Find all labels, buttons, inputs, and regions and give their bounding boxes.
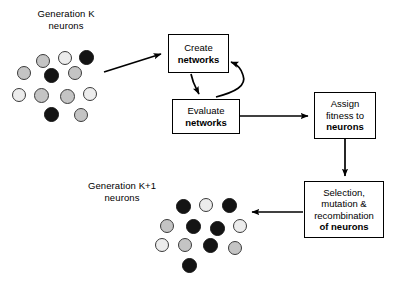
box-line: networks — [185, 117, 227, 129]
neuron-light — [199, 198, 213, 212]
arrow-create-to-evaluate — [191, 74, 199, 94]
generation-k-label: Generation K neurons — [14, 8, 118, 32]
box-line: recombination — [314, 210, 374, 222]
box-line: of neurons — [319, 221, 368, 233]
generation-k-plus-1-label: Generation K+1 neurons — [68, 180, 176, 204]
box-line: Create — [184, 42, 213, 54]
neuron-dark — [182, 258, 197, 273]
neuron-dark — [176, 199, 191, 214]
arrow-genk-to-create — [104, 54, 161, 72]
neuron-dark — [44, 107, 59, 122]
box-line: mutation & — [321, 198, 366, 210]
box-line: fitness to — [326, 110, 364, 122]
box-line: Selection, — [323, 187, 365, 199]
neuron-dark — [186, 219, 201, 234]
box-line: neurons — [326, 121, 363, 133]
neuron-dark — [203, 238, 218, 253]
neuron-mid — [17, 66, 31, 80]
neuron-mid — [68, 66, 82, 80]
box-line: Evaluate — [188, 105, 225, 117]
neuron-mid — [228, 241, 242, 255]
neuron-dark — [44, 68, 59, 83]
neuron-light — [83, 87, 97, 101]
neuron-dark — [79, 50, 94, 65]
neuron-mid — [160, 219, 174, 233]
neuron-light — [12, 88, 26, 102]
neuron-mid — [178, 238, 192, 252]
neuron-light — [58, 51, 72, 65]
neuron-dark — [210, 221, 225, 236]
neuron-light — [233, 219, 247, 233]
neuron-light — [155, 238, 169, 252]
neuron-dark — [222, 198, 237, 213]
selection-mutation-box[interactable]: Selection, mutation & recombination of n… — [304, 181, 384, 238]
neuron-mid — [34, 88, 49, 103]
evaluate-networks-box[interactable]: Evaluate networks — [172, 99, 240, 134]
create-networks-box[interactable]: Create networks — [168, 34, 229, 73]
neuron-mid — [74, 108, 88, 122]
neuron-mid — [36, 54, 50, 68]
box-line: networks — [178, 54, 220, 66]
neuroevolution-diagram: Generation K neurons Generation K+1 neur… — [0, 0, 397, 285]
assign-fitness-box[interactable]: Assign fitness to neurons — [314, 92, 376, 139]
neuron-mid — [60, 89, 75, 104]
box-line: Assign — [331, 98, 360, 110]
